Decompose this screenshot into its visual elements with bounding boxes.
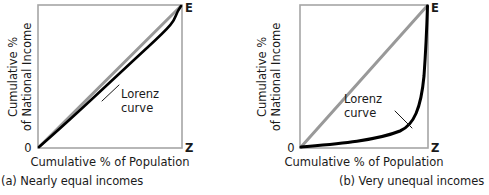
label-e-top-right: E — [431, 1, 439, 15]
y-axis-label-line2: of National Income — [20, 23, 34, 132]
panel-a-nearly-equal-incomes: Lorenz curve E Z 0 Cumulative % of Popul… — [0, 0, 225, 195]
panel-b-caption: (b) Very unequal incomes — [225, 174, 489, 188]
lorenz-annotation-line2: curve — [344, 106, 376, 120]
label-e-top-right: E — [185, 1, 193, 15]
panel-a-caption: (a) Nearly equal incomes — [0, 174, 226, 188]
x-axis-label: Cumulative % of Population — [30, 155, 189, 169]
panel-b-very-unequal-incomes: Lorenz curve E Z 0 Cumulative % of Popul… — [225, 0, 450, 195]
lorenz-annotation-line1: Lorenz — [121, 87, 159, 101]
panel-a-plot: Lorenz curve E Z 0 Cumulative % of Popul… — [0, 0, 225, 172]
y-axis-label-line2: of National Income — [269, 23, 283, 132]
label-zero-origin: 0 — [287, 141, 294, 155]
y-axis-label-line1: Cumulative % — [6, 37, 20, 117]
label-z-bottom-right: Z — [431, 141, 439, 155]
panel-b-plot: Lorenz curve E Z 0 Cumulative % of Popul… — [225, 0, 450, 172]
label-zero-origin: 0 — [24, 141, 31, 155]
y-axis-label-line1: Cumulative % — [255, 37, 269, 117]
lorenz-annotation-line1: Lorenz — [344, 92, 382, 106]
label-z-bottom-right: Z — [185, 141, 193, 155]
lorenz-annotation-line2: curve — [121, 101, 153, 115]
x-axis-label: Cumulative % of Population — [284, 155, 443, 169]
